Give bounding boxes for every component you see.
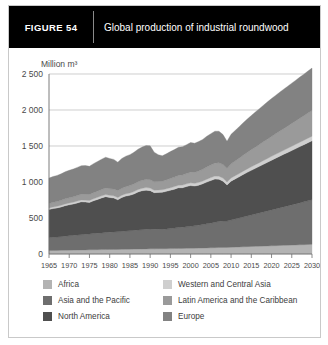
x-axis-tick-label: 1995	[162, 261, 178, 270]
legend-label: Latin America and the Caribbean	[178, 296, 297, 305]
legend-swatch-icon	[43, 280, 52, 289]
x-axis-tick-label: 2005	[203, 261, 219, 270]
x-axis-tick-label: 1980	[102, 261, 118, 270]
legend-item: Western and Central Asia	[163, 280, 311, 289]
legend-swatch-icon	[43, 296, 52, 305]
legend-swatch-icon	[163, 280, 172, 289]
x-axis-tick-label: 2000	[182, 261, 198, 270]
x-axis-tick-label: 2025	[284, 261, 300, 270]
x-axis-tick-label: 1975	[81, 261, 97, 270]
figure-card: FIGURE 54 Global production of industria…	[8, 5, 321, 338]
x-axis-tick-label: 2010	[223, 261, 239, 270]
x-axis-tick-label: 1965	[41, 261, 57, 270]
y-axis-tick-label: 2 500	[22, 69, 44, 79]
figure-header: FIGURE 54 Global production of industria…	[9, 6, 320, 48]
x-axis-tick-label: 1970	[61, 261, 77, 270]
figure-number-label: FIGURE 54	[9, 6, 93, 48]
x-axis-tick-label: 2030	[304, 261, 320, 270]
legend-label: Western and Central Asia	[178, 280, 271, 289]
figure-page: FIGURE 54 Global production of industria…	[0, 0, 328, 345]
stacked-area-chart: 05001 0001 5002 0002 5001965197019751980…	[9, 48, 320, 273]
legend-item: Africa	[43, 280, 163, 289]
legend-swatch-icon	[163, 296, 172, 305]
legend-label: Africa	[58, 280, 79, 289]
y-axis-tick-label: 1 500	[22, 141, 44, 151]
x-axis-tick-label: 1985	[122, 261, 138, 270]
chart-area: Million m³ 05001 0001 5002 0002 50019651…	[9, 48, 320, 337]
y-axis-tick-label: 0	[38, 249, 43, 259]
legend-swatch-icon	[43, 312, 52, 321]
legend-item: North America	[43, 312, 163, 321]
chart-legend: AfricaWestern and Central AsiaAsia and t…	[43, 276, 311, 324]
y-axis-tick-label: 2 000	[22, 105, 44, 115]
x-axis-tick-label: 2020	[263, 261, 279, 270]
legend-item: Europe	[163, 312, 311, 321]
y-axis-tick-label: 500	[29, 213, 43, 223]
legend-swatch-icon	[163, 312, 172, 321]
legend-item: Asia and the Pacific	[43, 296, 163, 305]
x-axis-tick-label: 1990	[142, 261, 158, 270]
legend-label: North America	[58, 312, 110, 321]
legend-item: Latin America and the Caribbean	[163, 296, 311, 305]
x-axis-tick-label: 2015	[243, 261, 259, 270]
y-axis-tick-label: 1 000	[22, 177, 44, 187]
legend-label: Europe	[178, 312, 204, 321]
legend-label: Asia and the Pacific	[58, 296, 130, 305]
figure-title: Global production of industrial roundwoo…	[94, 6, 320, 48]
